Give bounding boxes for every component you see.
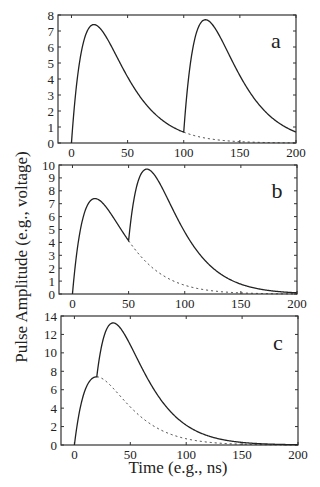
plot-frame <box>58 15 296 143</box>
solid-curve <box>71 20 296 143</box>
y-tick-label: 6 <box>48 40 55 55</box>
y-tick-label: 2 <box>48 104 55 119</box>
panel-c: 05010015020002468101214c <box>44 309 308 463</box>
y-tick-label: 4 <box>51 401 58 416</box>
y-axis-label: Pulse Amplitude (e.g., voltage) <box>12 151 31 363</box>
x-tick-label: 150 <box>230 145 250 160</box>
panel-letter: a <box>271 28 281 53</box>
y-tick-label: 14 <box>44 309 58 324</box>
y-tick-label: 2 <box>49 261 56 276</box>
y-tick-label: 8 <box>49 183 56 198</box>
y-tick-label: 12 <box>44 327 57 342</box>
y-tick-label: 2 <box>51 419 58 434</box>
x-axis-label: Time (e.g., ns) <box>128 458 227 477</box>
dotted-curve <box>97 377 298 445</box>
x-tick-label: 150 <box>231 296 251 311</box>
y-tick-label: 0 <box>51 438 58 453</box>
x-tick-label: 200 <box>288 447 308 462</box>
y-tick-label: 10 <box>44 345 57 360</box>
y-tick-label: 0 <box>48 136 55 151</box>
panel-letter: c <box>273 330 283 355</box>
y-tick-label: 7 <box>49 196 56 211</box>
x-tick-label: 50 <box>122 296 135 311</box>
y-tick-label: 9 <box>49 170 56 185</box>
y-tick-label: 6 <box>49 209 56 224</box>
panel-b: 050100150200012345678910b <box>42 158 307 312</box>
x-tick-label: 200 <box>286 145 306 160</box>
y-tick-label: 3 <box>48 88 55 103</box>
y-tick-label: 1 <box>48 120 55 135</box>
y-tick-label: 5 <box>48 56 55 71</box>
panel-a: 050100150200012345678a <box>48 8 306 161</box>
y-tick-label: 4 <box>48 72 55 87</box>
y-tick-label: 10 <box>42 158 55 173</box>
x-tick-label: 150 <box>232 447 252 462</box>
x-tick-label: 0 <box>69 296 76 311</box>
y-tick-label: 5 <box>49 222 56 237</box>
y-tick-label: 8 <box>51 364 58 379</box>
plot-frame <box>61 316 298 445</box>
solid-curve <box>74 323 298 445</box>
y-tick-label: 0 <box>49 287 56 302</box>
x-tick-label: 100 <box>174 145 194 160</box>
solid-curve <box>72 169 297 294</box>
y-tick-label: 3 <box>49 248 56 263</box>
x-tick-label: 0 <box>68 145 75 160</box>
x-tick-label: 200 <box>287 296 307 311</box>
panel-letter: b <box>272 178 283 203</box>
y-tick-label: 7 <box>48 24 55 39</box>
figure: 050100150200012345678a050100150200012345… <box>0 0 320 487</box>
x-tick-label: 50 <box>121 145 134 160</box>
y-tick-label: 6 <box>51 382 58 397</box>
plot-frame <box>59 165 297 294</box>
x-tick-label: 0 <box>71 447 78 462</box>
x-tick-label: 100 <box>175 296 195 311</box>
y-tick-label: 4 <box>49 235 56 250</box>
y-tick-label: 8 <box>48 8 55 23</box>
y-tick-label: 1 <box>49 274 56 289</box>
